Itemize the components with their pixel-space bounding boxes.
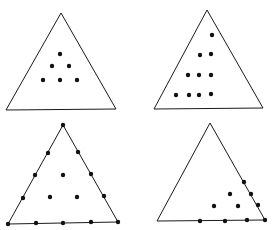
triangle-outline xyxy=(6,13,116,110)
dot xyxy=(263,218,267,222)
dot xyxy=(187,93,191,97)
dot xyxy=(33,173,37,177)
dot xyxy=(197,73,201,77)
dot xyxy=(75,78,79,82)
dot xyxy=(75,195,79,199)
dot xyxy=(198,53,202,57)
dot xyxy=(46,151,50,155)
dot xyxy=(228,192,232,196)
dot xyxy=(242,180,246,184)
dot xyxy=(89,172,93,176)
dot xyxy=(209,73,213,77)
dot xyxy=(67,64,71,68)
dot xyxy=(102,194,106,198)
triangle-outline xyxy=(154,10,263,109)
dot xyxy=(41,78,45,82)
dot xyxy=(21,196,25,200)
panel-bottom-left xyxy=(6,123,120,226)
dot xyxy=(61,123,65,127)
dot xyxy=(61,221,65,225)
dot xyxy=(223,219,227,223)
dot xyxy=(34,221,38,225)
dot xyxy=(209,92,213,96)
dot xyxy=(198,219,202,223)
dot xyxy=(76,150,80,154)
dot xyxy=(186,73,190,77)
panel-bottom-right xyxy=(157,123,267,223)
panel-top-right xyxy=(154,10,263,109)
dot xyxy=(245,218,249,222)
dot xyxy=(209,52,213,56)
dot xyxy=(256,203,260,207)
dot xyxy=(58,78,62,82)
dot xyxy=(197,93,201,97)
triangle-dot-diagram xyxy=(0,0,272,230)
dot xyxy=(116,220,120,224)
dot xyxy=(6,222,10,226)
dot xyxy=(210,33,214,37)
dot xyxy=(61,173,65,177)
dot xyxy=(89,220,93,224)
dot xyxy=(236,204,240,208)
dot xyxy=(48,195,52,199)
triangle-outline xyxy=(157,123,265,221)
dot xyxy=(249,192,253,196)
dot xyxy=(174,93,178,97)
dot xyxy=(50,64,54,68)
dot xyxy=(212,204,216,208)
diagram-svg xyxy=(0,0,272,230)
panel-top-left xyxy=(6,13,116,110)
dot xyxy=(58,52,62,56)
